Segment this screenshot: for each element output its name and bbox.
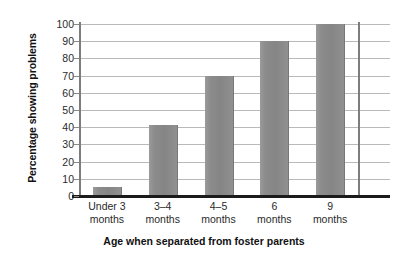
x-axis-line: [72, 195, 390, 198]
y-axis-tick-mark: [74, 93, 79, 94]
x-axis-tick-label-line: months: [287, 213, 373, 226]
bar: [205, 76, 234, 196]
y-axis-tick-mark: [74, 127, 79, 128]
plot-right-border: [358, 22, 360, 197]
y-axis-tick-mark: [74, 110, 79, 111]
y-axis-tick-mark: [74, 41, 79, 42]
y-axis-tick-mark: [74, 24, 79, 25]
x-axis-title: Age when separated from foster parents: [0, 235, 408, 247]
y-axis-tick-label: 100: [40, 18, 74, 30]
y-axis-line: [79, 22, 81, 197]
bar: [260, 41, 289, 196]
y-axis-tick-mark: [74, 144, 79, 145]
x-axis-tick-label-line: 9: [287, 200, 373, 213]
bar: [149, 125, 178, 196]
y-axis-tick-label: 60: [40, 87, 74, 99]
y-axis-tick-label: 30: [40, 138, 74, 150]
y-axis-tick-mark: [74, 196, 79, 197]
y-axis-tick-mark: [74, 58, 79, 59]
y-axis-tick-label: 10: [40, 173, 74, 185]
y-axis-tick-label: 70: [40, 70, 74, 82]
y-axis-tick-mark: [74, 179, 79, 180]
bar-chart-figure: Percentage showing problems 010203040506…: [0, 0, 408, 259]
bar: [316, 24, 345, 196]
y-axis-tick-label: 20: [40, 156, 74, 168]
y-axis-tick-label: 80: [40, 52, 74, 64]
x-axis-tick-label: 9months: [287, 200, 373, 225]
y-axis-tick-mark: [74, 162, 79, 163]
y-axis-tick-mark: [74, 76, 79, 77]
plot-area: [79, 24, 390, 196]
y-axis-tick-label: 90: [40, 35, 74, 47]
y-axis-tick-label: 50: [40, 104, 74, 116]
y-axis-tick-label: 40: [40, 121, 74, 133]
